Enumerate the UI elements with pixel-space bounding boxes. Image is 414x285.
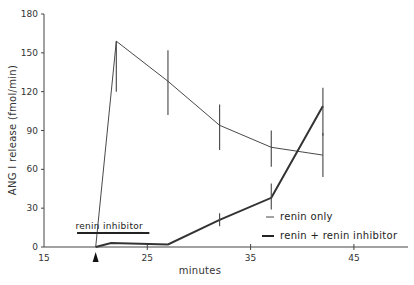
y-tick-label: 30 — [27, 203, 39, 213]
y-tick-label: 120 — [21, 87, 38, 97]
legend-label-renin-plus-inhibitor: renin + renin inhibitor — [280, 230, 398, 241]
y-tick-label: 150 — [21, 48, 38, 58]
y-tick-label: 180 — [21, 9, 38, 19]
y-tick-label: 0 — [32, 242, 38, 252]
x-tick-label: 15 — [38, 253, 49, 263]
x-tick-label: 35 — [245, 253, 256, 263]
x-axis-title: minutes — [179, 265, 222, 276]
inhibitor-bar-label: renin inhibitor — [75, 221, 143, 231]
y-tick-label: 90 — [27, 126, 39, 136]
y-tick-label: 60 — [27, 164, 39, 174]
y-axis-title: ANG I release (fmol/min) — [7, 65, 18, 195]
x-tick-label: 45 — [348, 253, 359, 263]
x-tick-label: 25 — [142, 253, 153, 263]
legend: renin onlyrenin + renin inhibitor — [262, 211, 398, 241]
annotations: renin inhibitor — [75, 221, 149, 262]
line-chart: 030609012015018015253545ANG I release (f… — [0, 0, 414, 285]
legend-label-renin-only: renin only — [280, 211, 333, 222]
arrowhead-marker — [93, 252, 99, 262]
